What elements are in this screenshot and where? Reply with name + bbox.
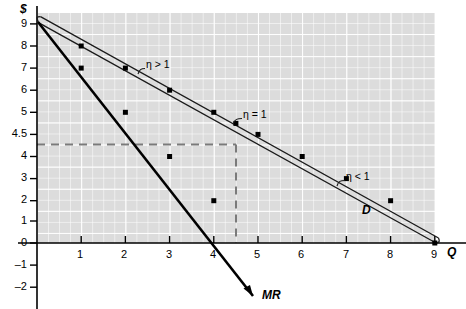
x-axis-ticks [81,236,435,243]
x-tick-label-1: 1 [77,248,83,260]
y-tick-label-5: 5 [0,105,27,117]
annotation-demand-label: D [362,203,371,217]
x-axis-title: Q [447,245,456,259]
x-tick-label-2: 2 [121,248,127,260]
chart-figure: $ Q 9 8 7 6 5 4.5 4 3 2 1 0 –1 –2 1 2 3 … [0,0,466,309]
y-tick-label-1: 1 [0,214,27,226]
y-tick-label-6: 6 [0,83,27,95]
y-tick-label-7: 7 [0,61,27,73]
annotation-inelastic: η < 1 [346,170,370,182]
annotation-mr-label: MR [262,288,281,302]
annotation-elastic: η > 1 [146,58,170,70]
x-tick-label-9: 9 [431,248,437,260]
y-tick-label-4point5: 4.5 [0,127,27,139]
x-tick-label-4: 4 [210,248,216,260]
y-tick-label-3: 3 [0,171,27,183]
y-tick-label-neg1: –1 [0,258,27,270]
x-tick-label-7: 7 [343,248,349,260]
y-axis-title: $ [20,2,27,16]
y-tick-label-2: 2 [0,193,27,205]
annotation-unit-elastic: η = 1 [243,108,267,120]
x-tick-label-8: 8 [387,248,393,260]
x-tick-label-5: 5 [254,248,260,260]
chart-canvas [0,0,466,309]
y-tick-label-8: 8 [0,39,27,51]
x-tick-label-3: 3 [166,248,172,260]
x-tick-label-6: 6 [298,248,304,260]
y-tick-label-0: 0 [0,236,27,248]
y-axis-ticks [30,24,37,287]
mr-data-points [79,66,217,204]
demand-curve [37,17,439,243]
y-tick-label-4: 4 [0,149,27,161]
y-tick-label-9: 9 [0,17,27,29]
y-tick-label-neg2: –2 [0,280,27,292]
